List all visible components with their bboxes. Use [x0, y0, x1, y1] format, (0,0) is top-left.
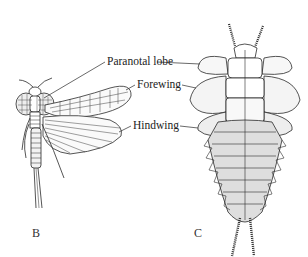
panel-label-c: C	[194, 227, 202, 239]
label-hindwing: Hindwing	[133, 120, 179, 132]
insect-morphology-figure: Paranotal lobe Forewing Hindwing B C	[0, 0, 308, 257]
winged-insect-b	[16, 78, 131, 208]
nymph-c	[190, 24, 300, 256]
label-paranotal-lobe: Paranotal lobe	[107, 56, 173, 68]
panel-label-b: B	[32, 227, 40, 239]
label-forewing: Forewing	[137, 79, 181, 91]
